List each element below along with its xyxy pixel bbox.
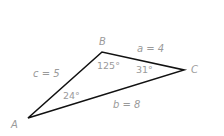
- side-label-c: c = 5: [33, 68, 60, 79]
- angle-label-b: 125°: [97, 60, 120, 71]
- vertex-label-c: C: [191, 64, 198, 75]
- vertex-label-b: B: [99, 36, 106, 47]
- triangle-diagram: B C A a = 4 c = 5 b = 8 125° 31° 24°: [0, 0, 224, 136]
- vertex-label-a: A: [10, 119, 18, 130]
- angle-label-c: 31°: [136, 64, 153, 75]
- side-label-a: a = 4: [137, 43, 164, 54]
- angle-label-a: 24°: [63, 90, 80, 101]
- side-label-b: b = 8: [113, 99, 140, 110]
